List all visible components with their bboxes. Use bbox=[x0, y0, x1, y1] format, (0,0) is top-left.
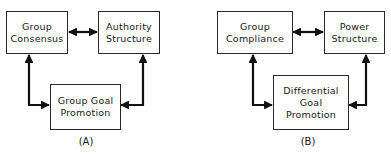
node-label-line: Structure bbox=[332, 33, 378, 45]
node-group-compliance: Group Compliance bbox=[217, 11, 293, 54]
node-label-line: Power bbox=[340, 21, 370, 33]
node-label-line: Compliance bbox=[226, 33, 284, 45]
node-differential-goal-promotion: Differential Goal Promotion bbox=[273, 75, 349, 130]
node-label-line: Group bbox=[22, 21, 52, 33]
node-label-line: Promotion bbox=[286, 109, 336, 121]
node-label-line: Promotion bbox=[60, 107, 110, 119]
arrow-compliance-goal bbox=[253, 55, 272, 105]
node-group-consensus: Group Consensus bbox=[6, 11, 68, 54]
node-authority-structure: Authority Structure bbox=[98, 11, 160, 54]
node-label-line: Structure bbox=[106, 33, 152, 45]
node-power-structure: Power Structure bbox=[324, 11, 385, 54]
node-label-line: Group Goal bbox=[58, 95, 114, 107]
arrow-power-goal bbox=[349, 55, 366, 105]
node-label-line: Group bbox=[240, 21, 270, 33]
caption-b: (B) bbox=[293, 136, 323, 147]
caption-a: (A) bbox=[71, 136, 101, 147]
arrow-consensus-goal bbox=[29, 55, 49, 105]
node-label-line: Consensus bbox=[10, 33, 63, 45]
node-label-line: Differential bbox=[283, 85, 338, 97]
node-label-line: Authority bbox=[106, 21, 152, 33]
node-label-line: Goal bbox=[300, 97, 322, 109]
node-group-goal-promotion: Group Goal Promotion bbox=[50, 84, 121, 130]
arrow-authority-goal bbox=[121, 55, 143, 105]
